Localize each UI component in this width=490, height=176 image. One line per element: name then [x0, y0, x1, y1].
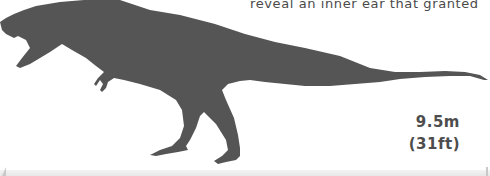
- size-label: 9.5m (31ft): [409, 111, 460, 155]
- bottom-divider-bar: [0, 170, 490, 176]
- size-imperial: (31ft): [409, 133, 460, 155]
- bar-left-edge: [2, 167, 6, 176]
- size-metric: 9.5m: [409, 111, 460, 133]
- bar-right-edge: [486, 167, 488, 176]
